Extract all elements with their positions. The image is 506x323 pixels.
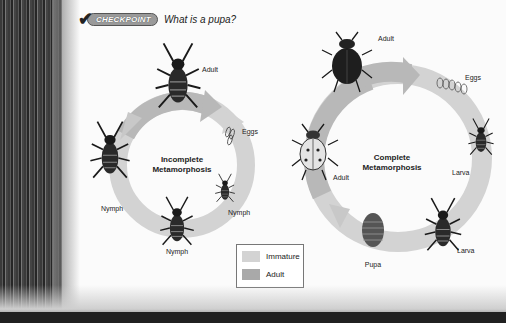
complete-stage-label: Eggs bbox=[465, 74, 481, 82]
legend-swatch-adult bbox=[242, 269, 260, 280]
complete-cycle: Complete Metamorphosis Adult Eggs La bbox=[292, 32, 494, 269]
complete-stage-label: Larva bbox=[452, 169, 470, 176]
photo-frame-edge bbox=[0, 312, 506, 323]
pupa-illustration bbox=[362, 213, 384, 247]
incomplete-stage-label: Nymph bbox=[101, 205, 123, 213]
incomplete-title-2: Metamorphosis bbox=[152, 165, 212, 174]
legend: Immature Adult bbox=[236, 244, 304, 288]
complete-arrow-head-adult bbox=[403, 57, 420, 95]
complete-title-2: Metamorphosis bbox=[362, 163, 422, 172]
legend-item-adult: Adult bbox=[242, 267, 303, 281]
complete-stage-label: Pupa bbox=[365, 261, 381, 269]
complete-stage-label: Larva bbox=[457, 247, 475, 254]
incomplete-cycle: Incomplete Metamorphosis Adult Eggs Nymp… bbox=[90, 43, 258, 256]
legend-swatch-immature bbox=[242, 251, 260, 262]
complete-stage-label: Adult bbox=[333, 174, 349, 181]
legend-item-immature: Immature bbox=[242, 249, 303, 263]
incomplete-stage-label: Eggs bbox=[242, 128, 258, 136]
complete-title-1: Complete bbox=[374, 153, 411, 162]
incomplete-title-1: Incomplete bbox=[161, 155, 204, 164]
legend-label: Adult bbox=[266, 270, 284, 279]
complete-stage-label: Adult bbox=[378, 35, 394, 42]
textbook-page: ✔ CHECKPOINT What is a pupa? Incomplete … bbox=[0, 0, 506, 312]
page-bottom-shadow bbox=[0, 285, 506, 312]
checkmark-icon: ✔ bbox=[78, 8, 93, 30]
incomplete-stage-label: Adult bbox=[202, 66, 218, 73]
incomplete-stage-label: Nymph bbox=[228, 209, 250, 217]
incomplete-stage-label: Nymph bbox=[166, 248, 188, 256]
legend-label: Immature bbox=[266, 252, 300, 261]
